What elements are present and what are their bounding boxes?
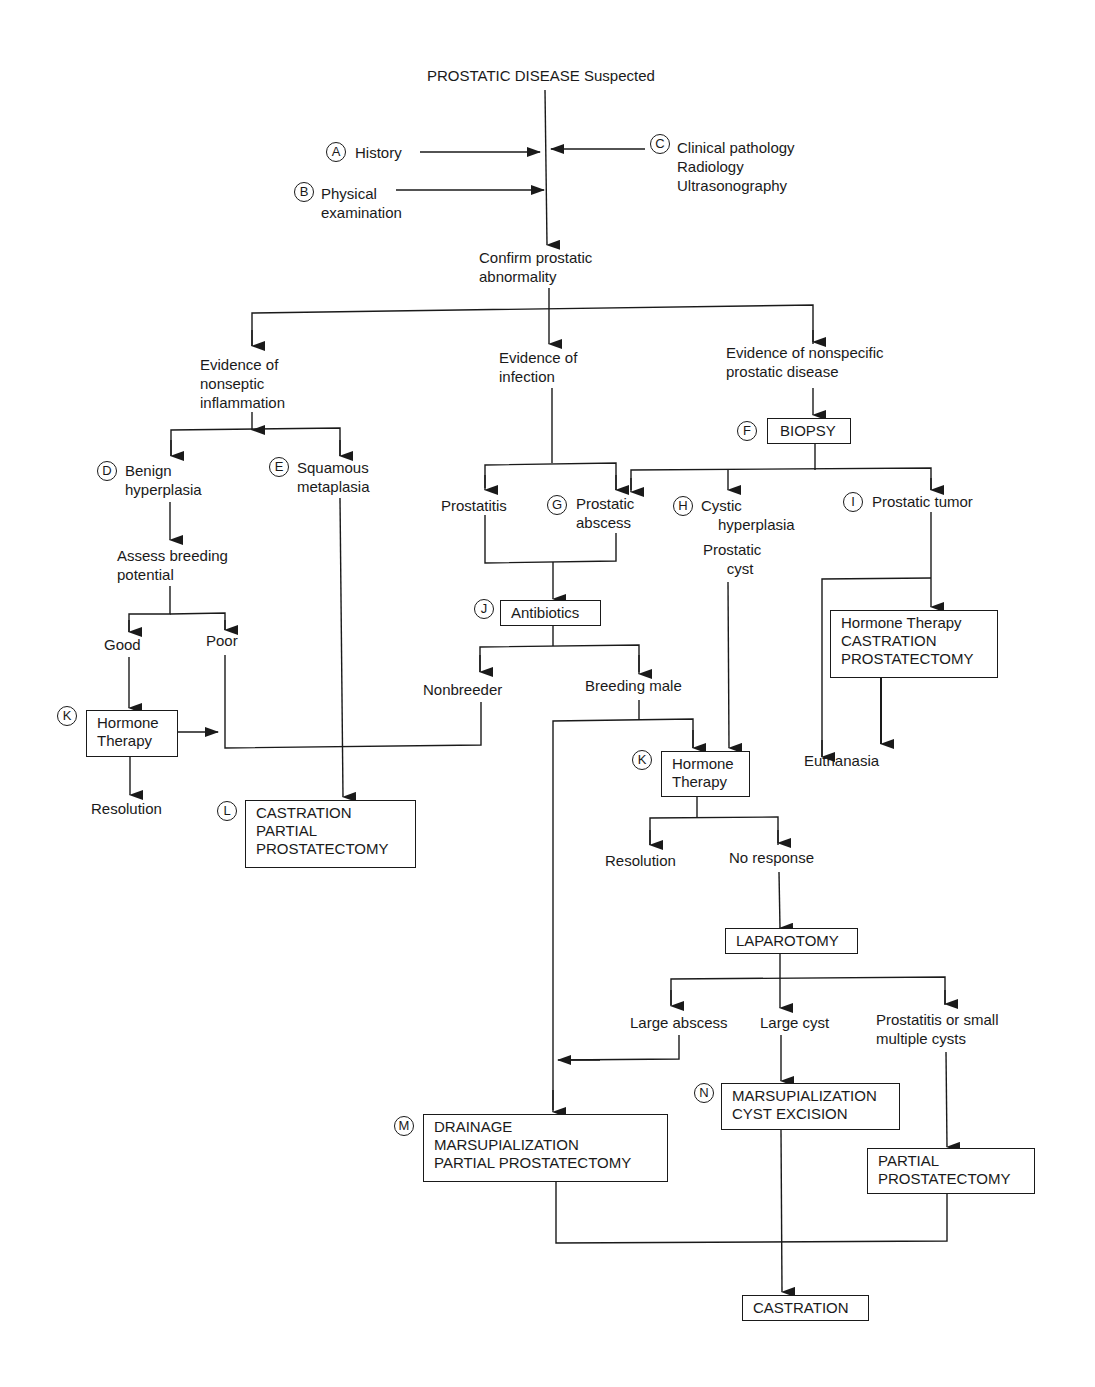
marsupialization-box: MARSUPIALIZATION CYST EXCISION xyxy=(721,1083,900,1130)
biopsy-box: BIOPSY xyxy=(767,418,851,444)
flowchart: PROSTATIC DISEASE Suspected A History B … xyxy=(0,0,1095,1387)
large-abscess-node: Large abscess xyxy=(630,1013,728,1032)
confirm-node: Confirm prostatic abnormality xyxy=(479,248,592,286)
marker-c: C xyxy=(650,134,670,154)
tumor-treatment-box: Hormone Therapy CASTRATION PROSTATECTOMY xyxy=(830,610,998,678)
prostatitis-node: Prostatitis xyxy=(441,496,507,515)
cystic-hyperplasia-node: Cystic hyperplasia xyxy=(701,496,795,534)
assess-breeding-node: Assess breeding potential xyxy=(117,546,228,584)
marker-f: F xyxy=(737,421,757,441)
partial-prostatectomy-box: PARTIAL PROSTATECTOMY xyxy=(867,1148,1035,1194)
prostatic-abscess-node: Prostatic abscess xyxy=(576,494,634,532)
resolution-mid-node: Resolution xyxy=(605,851,676,870)
benign-hyperplasia-node: Benign hyperplasia xyxy=(125,461,202,499)
marker-i: I xyxy=(843,492,863,512)
marker-j: J xyxy=(474,599,494,619)
castration-final-box: CASTRATION xyxy=(742,1295,869,1321)
marker-a: A xyxy=(326,142,346,162)
marker-l: L xyxy=(217,801,237,821)
clinical-node: Clinical pathology Radiology Ultrasonogr… xyxy=(677,138,795,195)
breeding-male-node: Breeding male xyxy=(585,676,682,695)
good-node: Good xyxy=(104,635,141,654)
squamous-metaplasia-node: Squamous metaplasia xyxy=(297,458,370,496)
nonspecific-node: Evidence of nonspecific prostatic diseas… xyxy=(726,343,884,381)
infection-node: Evidence of infection xyxy=(499,348,577,386)
physical-exam-node: Physical examination xyxy=(321,184,402,222)
resolution-left-node: Resolution xyxy=(91,799,162,818)
antibiotics-box: Antibiotics xyxy=(500,600,601,626)
marker-h: H xyxy=(673,496,693,516)
marker-k-left: K xyxy=(57,706,77,726)
prostatic-tumor-node: Prostatic tumor xyxy=(872,492,973,511)
no-response-node: No response xyxy=(729,848,814,867)
hormone-therapy-left-box: Hormone Therapy xyxy=(86,710,178,757)
marker-m: M xyxy=(394,1116,414,1136)
history-node: History xyxy=(355,143,402,162)
marker-e: E xyxy=(269,457,289,477)
marker-n: N xyxy=(694,1083,714,1103)
hormone-therapy-mid-box: Hormone Therapy xyxy=(661,751,750,797)
laparotomy-box: LAPAROTOMY xyxy=(725,928,858,954)
euthanasia-node: Euthanasia xyxy=(804,751,879,770)
drainage-box: DRAINAGE MARSUPIALIZATION PARTIAL PROSTA… xyxy=(423,1114,668,1182)
nonbreeder-node: Nonbreeder xyxy=(423,680,502,699)
marker-b: B xyxy=(294,182,314,202)
title-node: PROSTATIC DISEASE Suspected xyxy=(427,66,655,85)
small-cysts-node: Prostatitis or small multiple cysts xyxy=(876,1010,999,1048)
marker-d: D xyxy=(97,461,117,481)
poor-node: Poor xyxy=(206,631,238,650)
prostatic-cyst-node: Prostatic cyst xyxy=(703,540,761,578)
large-cyst-node: Large cyst xyxy=(760,1013,829,1032)
marker-g: G xyxy=(547,495,567,515)
marker-k-mid: K xyxy=(632,750,652,770)
castration-partial-box: CASTRATION PARTIAL PROSTATECTOMY xyxy=(245,800,416,868)
nonseptic-node: Evidence of nonseptic inflammation xyxy=(200,355,285,412)
